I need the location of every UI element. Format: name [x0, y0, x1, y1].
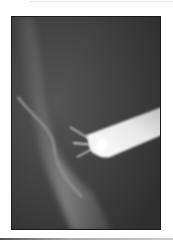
bottom-edge-line [0, 238, 173, 240]
xray-drawing [12, 17, 161, 230]
top-edge-line [30, 1, 173, 2]
xray-image [11, 16, 161, 230]
